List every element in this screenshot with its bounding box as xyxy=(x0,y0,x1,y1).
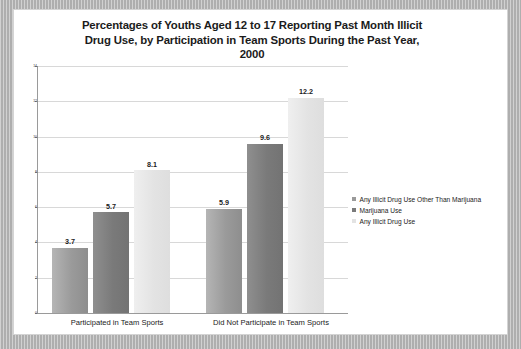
bar-group-participated: 3.7 5.7 8.1 xyxy=(52,66,182,313)
ytick-label-14: 14 xyxy=(33,64,37,68)
bar-group-did-not-participate: 5.9 9.6 12.2 xyxy=(206,66,336,313)
ytick-label-10: 10 xyxy=(33,135,37,139)
bar-any-illicit-participated[interactable] xyxy=(134,170,170,313)
chart-title-line-3: 2000 xyxy=(52,47,452,62)
ytick-label-2: 2 xyxy=(35,276,37,280)
plot-area: 14 12 10 8 6 4 2 0 3.7 xyxy=(37,66,348,314)
bar-value-label: 8.1 xyxy=(132,160,172,169)
bar-value-label: 5.9 xyxy=(204,198,244,207)
legend-swatch-icon xyxy=(352,208,356,212)
legend-item-other-than-marijuana[interactable]: Any Illicit Drug Use Other Than Marijuan… xyxy=(352,195,502,204)
ytick-label-12: 12 xyxy=(33,99,37,103)
bar-marijuana-did-not[interactable] xyxy=(247,144,283,313)
bar-marijuana-participated[interactable] xyxy=(93,212,129,313)
legend-swatch-icon xyxy=(352,219,356,223)
bar-value-label: 9.6 xyxy=(245,133,285,142)
legend-label: Any Illicit Drug Use Other Than Marijuan… xyxy=(360,195,482,204)
chart-title-line-1: Percentages of Youths Aged 12 to 17 Repo… xyxy=(52,18,452,33)
legend-label: Marijuana Use xyxy=(360,206,403,215)
ytick-label-6: 6 xyxy=(35,205,37,209)
legend-item-any-illicit[interactable]: Any Illicit Drug Use xyxy=(352,217,502,226)
bar-other-than-marijuana-participated[interactable] xyxy=(52,248,88,313)
xaxis-category-label-did-not-participate: Did Not Participate in Team Sports xyxy=(171,318,371,327)
chart-legend: Any Illicit Drug Use Other Than Marijuan… xyxy=(352,195,502,229)
chart-card: Percentages of Youths Aged 12 to 17 Repo… xyxy=(14,10,507,334)
bar-value-label: 12.2 xyxy=(286,87,326,96)
chart-title: Percentages of Youths Aged 12 to 17 Repo… xyxy=(52,18,452,62)
legend-swatch-icon xyxy=(352,197,356,201)
ytick-label-0: 0 xyxy=(35,311,37,315)
bar-any-illicit-did-not[interactable] xyxy=(288,98,324,313)
ytick-label-8: 8 xyxy=(35,170,37,174)
legend-item-marijuana[interactable]: Marijuana Use xyxy=(352,206,502,215)
screenshot-root: Percentages of Youths Aged 12 to 17 Repo… xyxy=(0,0,521,349)
bar-other-than-marijuana-did-not[interactable] xyxy=(206,209,242,313)
bar-value-label: 5.7 xyxy=(91,202,131,211)
legend-label: Any Illicit Drug Use xyxy=(360,217,416,226)
bar-value-label: 3.7 xyxy=(50,237,90,246)
chart-title-line-2: Drug Use, by Participation in Team Sport… xyxy=(52,33,452,48)
ytick-label-4: 4 xyxy=(35,240,37,244)
